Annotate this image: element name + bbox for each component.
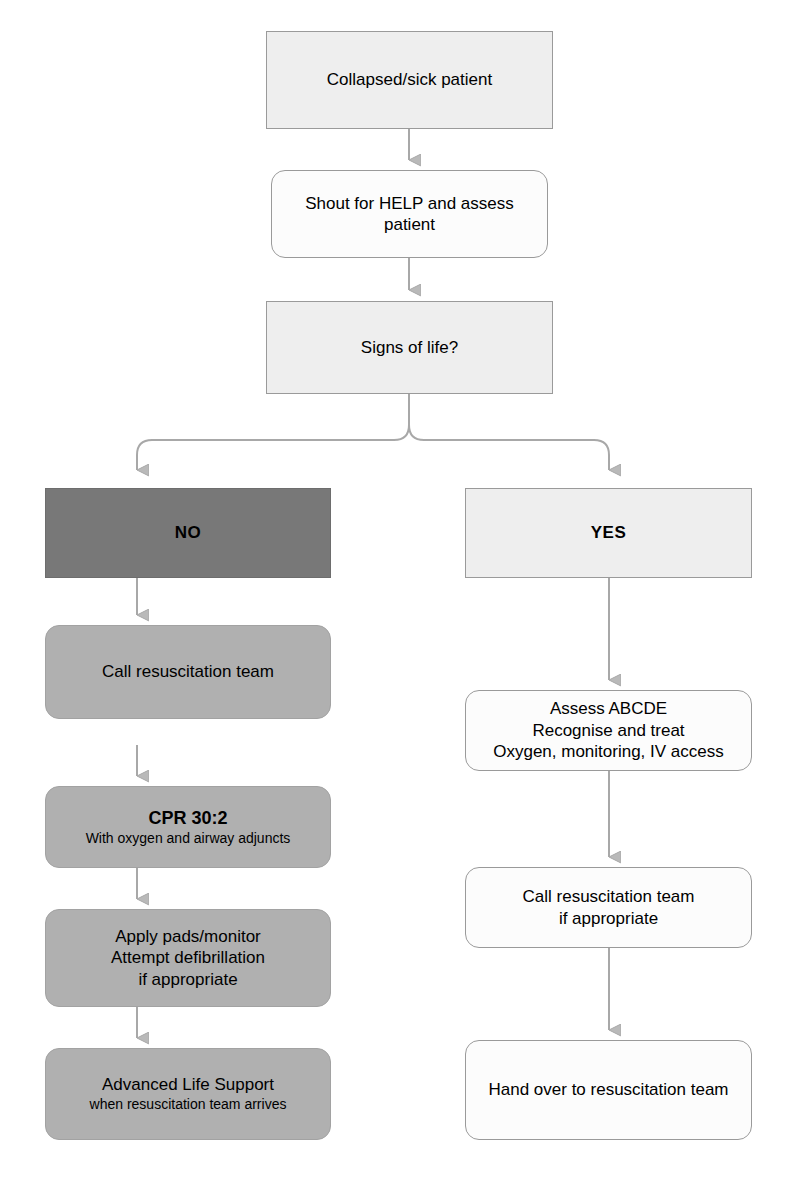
node-shout-for-help-line1: Shout for HELP and assess — [305, 193, 514, 214]
node-assess-abcde-line2: Recognise and treat — [532, 720, 684, 741]
node-advanced-life-support-title: Advanced Life Support — [102, 1074, 274, 1095]
node-hand-over-to-team[interactable]: Hand over to resuscitation team — [465, 1040, 752, 1140]
node-branch-yes-label: YES — [591, 522, 627, 543]
node-shout-for-help-line2: patient — [384, 214, 435, 235]
node-call-resuscitation-team[interactable]: Call resuscitation team — [45, 625, 331, 719]
flowchart-canvas: Collapsed/sick patient Shout for HELP an… — [0, 0, 797, 1201]
node-apply-pads-line1: Apply pads/monitor — [115, 926, 261, 947]
node-advanced-life-support-subtitle: when resuscitation team arrives — [90, 1096, 287, 1114]
node-signs-of-life[interactable]: Signs of life? — [266, 301, 553, 394]
node-assess-abcde-line3: Oxygen, monitoring, IV access — [493, 741, 724, 762]
node-cpr-30-2[interactable]: CPR 30:2 With oxygen and airway adjuncts — [45, 786, 331, 868]
node-call-resuscitation-team-label: Call resuscitation team — [102, 661, 274, 682]
node-call-team-if-appropriate-line2: if appropriate — [559, 908, 658, 929]
node-cpr-30-2-title: CPR 30:2 — [148, 807, 227, 830]
node-branch-no[interactable]: NO — [45, 488, 331, 578]
node-signs-of-life-label: Signs of life? — [361, 337, 458, 358]
node-branch-no-label: NO — [175, 522, 202, 543]
node-shout-for-help[interactable]: Shout for HELP and assess patient — [271, 170, 548, 258]
node-apply-pads-line3: if appropriate — [138, 969, 237, 990]
node-call-team-if-appropriate-line1: Call resuscitation team — [523, 886, 695, 907]
edge-signs-to-yes — [409, 425, 609, 470]
node-call-team-if-appropriate[interactable]: Call resuscitation team if appropriate — [465, 867, 752, 948]
node-apply-pads-defibrillation[interactable]: Apply pads/monitor Attempt defibrillatio… — [45, 909, 331, 1007]
node-hand-over-to-team-label: Hand over to resuscitation team — [488, 1079, 728, 1100]
node-apply-pads-line2: Attempt defibrillation — [111, 947, 265, 968]
node-assess-abcde-line1: Assess ABCDE — [550, 698, 667, 719]
edge-signs-to-no — [137, 425, 409, 470]
node-advanced-life-support[interactable]: Advanced Life Support when resuscitation… — [45, 1048, 331, 1140]
node-collapsed-sick-patient[interactable]: Collapsed/sick patient — [266, 31, 553, 129]
node-cpr-30-2-subtitle: With oxygen and airway adjuncts — [86, 830, 291, 848]
node-assess-abcde[interactable]: Assess ABCDE Recognise and treat Oxygen,… — [465, 690, 752, 771]
node-collapsed-sick-patient-label: Collapsed/sick patient — [327, 69, 492, 90]
node-branch-yes[interactable]: YES — [465, 488, 752, 578]
